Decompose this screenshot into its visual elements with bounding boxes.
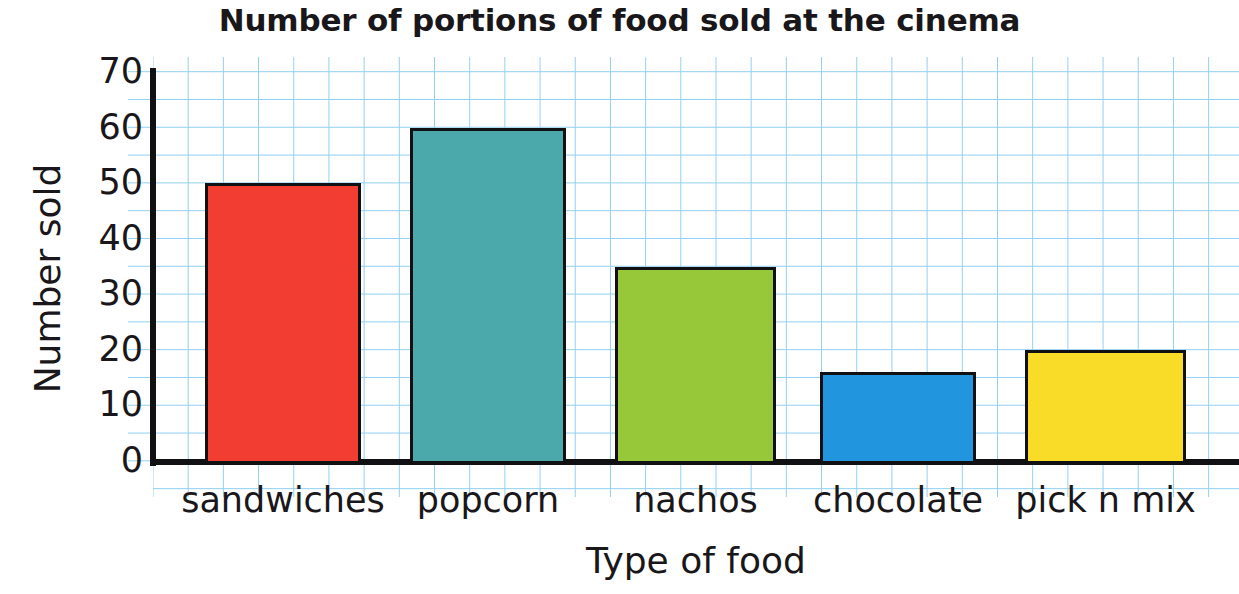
- bar-series: sandwichespopcornnachoschocolatepick n m…: [0, 0, 1239, 594]
- bar-nachos: [615, 267, 776, 465]
- bar-popcorn: [410, 128, 566, 464]
- x-axis-category-label: chocolate: [780, 480, 1016, 520]
- bar-sandwiches: [205, 183, 361, 464]
- x-axis-category-label: pick n mix: [985, 480, 1226, 520]
- bar-pick-n-mix: [1025, 350, 1186, 464]
- bar-chocolate: [820, 372, 976, 464]
- x-axis-category-label: sandwiches: [165, 480, 401, 520]
- x-axis-title: Type of food: [153, 540, 1239, 581]
- y-axis-title: Number sold: [27, 99, 68, 459]
- bar-chart-figure: Number of portions of food sold at the c…: [0, 0, 1239, 594]
- x-axis-category-label: popcorn: [370, 480, 606, 520]
